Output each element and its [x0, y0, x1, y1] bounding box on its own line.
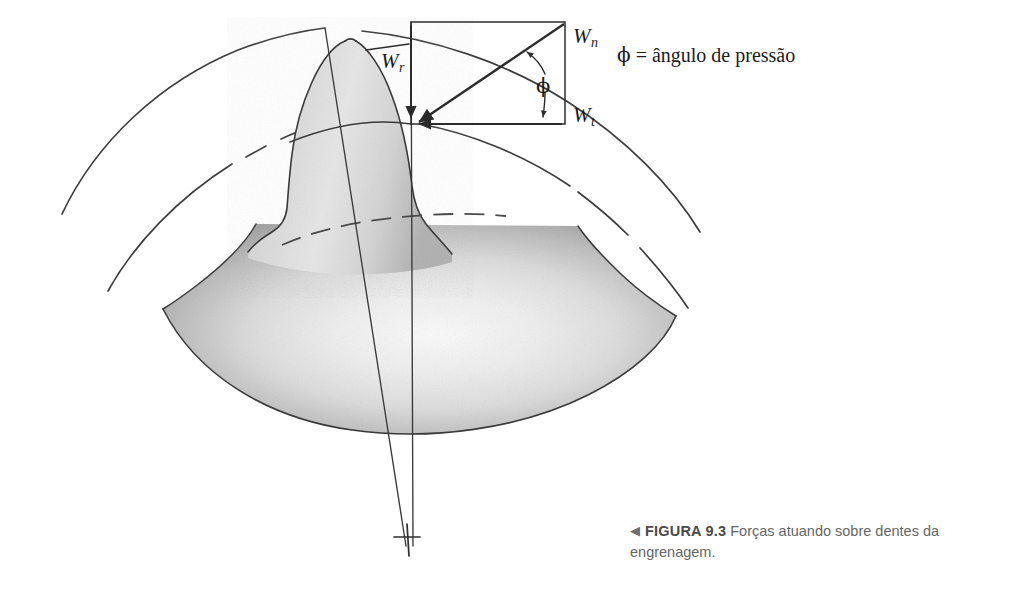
tangential-force-label: Wt [573, 105, 595, 129]
normal-force-label: Wn [573, 26, 598, 50]
radial-force-subscript: r [399, 60, 404, 75]
pressure-angle-note-symbol: ϕ [617, 43, 631, 67]
radial-force-label: Wr [381, 51, 404, 75]
tangential-force-subscript: t [591, 114, 595, 129]
gear-tooth [248, 39, 452, 275]
normal-force-symbol: W [573, 24, 591, 48]
caption-label: FIGURA 9.3 [645, 523, 726, 539]
normal-force-subscript: n [591, 35, 598, 50]
figure-page: Wn Wt Wr ϕ ϕ = ângulo de pressão ◀FIGURA… [0, 0, 1011, 616]
radial-force-symbol: W [381, 49, 399, 73]
force-rectangle [411, 22, 565, 124]
pressure-angle-symbol: ϕ [536, 76, 550, 97]
figure-caption: ◀FIGURA 9.3 Forças atuando sobre dentes … [630, 521, 1002, 562]
tangential-force-symbol: W [573, 103, 591, 127]
pressure-angle-note-text: = ângulo de pressão [631, 44, 796, 66]
caption-triangle-icon: ◀ [630, 523, 640, 538]
apex-cross-mark [394, 524, 420, 556]
normal-force-arrow [419, 24, 564, 122]
pressure-angle-note: ϕ = ângulo de pressão [617, 45, 795, 65]
